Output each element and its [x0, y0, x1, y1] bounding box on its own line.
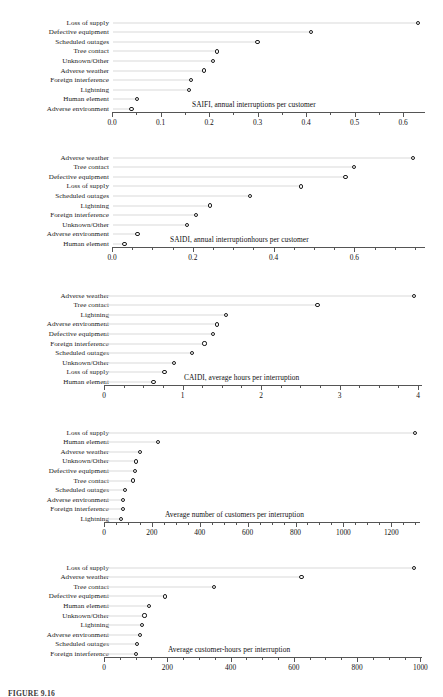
axis-tick-major	[112, 112, 113, 117]
dot-plot-row: Adverse environment	[0, 495, 443, 505]
axis-tick-minor	[176, 522, 177, 525]
axis-tick-minor	[136, 657, 137, 660]
axis-tick-minor	[367, 522, 368, 525]
axis-tick-major	[274, 247, 275, 252]
axis-tick-minor	[260, 522, 261, 525]
dot-plot-row: Loss of supply	[0, 428, 443, 438]
axis-tick-label: 0	[102, 528, 106, 537]
category-label: Foreign interference	[50, 211, 109, 220]
data-point-marker	[211, 59, 215, 63]
dot-plot-row: Human element	[0, 601, 443, 611]
category-label: Loss of supply	[67, 18, 109, 27]
data-point-marker	[215, 322, 219, 326]
category-label: Human element	[63, 601, 109, 610]
dot-plot-row: Adverse weather	[0, 447, 443, 457]
axis-tick-minor	[120, 657, 121, 660]
axis-tick-label: 0.5	[350, 118, 359, 127]
dot-plot-row: Lightning	[0, 310, 443, 320]
category-label: Unknown/Other	[62, 457, 109, 466]
leader-line	[113, 80, 189, 81]
dot-plot-row: Adverse environment	[0, 320, 443, 330]
dot-plot-row: Scheduled outages	[0, 37, 443, 47]
data-point-marker	[255, 40, 259, 44]
panel-title: SAIFI, annual interruptions per customer	[192, 100, 316, 109]
axis-tick-minor	[395, 247, 396, 250]
data-point-marker	[134, 459, 138, 463]
category-label: Defective equipment	[49, 466, 109, 475]
dot-plot-row: Adverse weather	[0, 153, 443, 163]
axis-tick-major	[104, 385, 105, 390]
axis-tick-label: 200	[162, 663, 173, 672]
data-point-marker	[187, 88, 191, 92]
category-label: Adverse weather	[60, 153, 109, 162]
dot-plot-row: Foreign interference	[0, 210, 443, 220]
axis-tick-label: 0.2	[188, 253, 197, 262]
x-axis: 01234	[0, 385, 443, 403]
category-label: Unknown/Other	[62, 358, 109, 367]
axis-tick-minor	[163, 385, 164, 388]
category-label: Defective equipment	[49, 172, 109, 181]
leader-line	[113, 186, 299, 187]
axis-tick-major	[112, 247, 113, 252]
data-point-marker	[212, 585, 216, 589]
leader-line	[113, 22, 416, 23]
axis-tick-minor	[405, 657, 406, 660]
data-point-marker	[185, 223, 189, 227]
dot-plot-row: Lightning	[0, 620, 443, 630]
axis-tick-major	[306, 112, 307, 117]
leader-line	[113, 99, 135, 100]
leader-line	[105, 442, 156, 443]
data-point-marker	[135, 642, 139, 646]
category-label: Loss of supply	[67, 428, 109, 437]
axis-tick-minor	[136, 112, 137, 115]
category-label: Scheduled outages	[55, 191, 109, 200]
axis-tick-minor	[124, 385, 125, 388]
axis-tick-minor	[246, 657, 247, 660]
axis-tick-minor	[415, 247, 416, 250]
axis-tick-major	[104, 522, 105, 527]
axis-tick-minor	[330, 112, 331, 115]
axis-tick-minor	[294, 247, 295, 250]
axis-tick-label: 600	[288, 663, 299, 672]
axis-tick-major	[355, 112, 356, 117]
leader-line	[113, 41, 256, 42]
category-label: Adverse environment	[47, 495, 109, 504]
data-point-marker	[412, 294, 416, 298]
data-point-marker	[134, 652, 138, 656]
axis-tick-minor	[151, 657, 152, 660]
leader-line	[105, 634, 138, 635]
dot-plot-row: Loss of supply	[0, 18, 443, 28]
data-point-marker	[411, 156, 415, 160]
axis-tick-minor	[262, 657, 263, 660]
data-point-marker	[208, 203, 212, 207]
data-point-marker	[121, 498, 125, 502]
data-point-marker	[123, 488, 127, 492]
category-label: Foreign interference	[50, 339, 109, 348]
axis-tick-minor	[314, 247, 315, 250]
axis-tick-minor	[403, 522, 404, 525]
axis-tick-minor	[355, 522, 356, 525]
leader-line	[105, 596, 163, 597]
data-point-marker	[156, 440, 160, 444]
axis-tick-major	[296, 522, 297, 527]
x-axis: 0.00.20.40.6	[0, 247, 443, 265]
dot-plot-row: Tree contact	[0, 301, 443, 311]
data-point-marker	[142, 613, 146, 617]
axis-tick-major	[354, 247, 355, 252]
axis-tick-minor	[281, 385, 282, 388]
axis-tick-minor	[379, 112, 380, 115]
leader-line	[113, 205, 208, 206]
category-label: Adverse environment	[47, 630, 109, 639]
leader-line	[105, 615, 143, 616]
x-axis: 0.00.10.20.30.40.50.6	[0, 112, 443, 130]
category-label: Adverse weather	[60, 66, 109, 75]
axis-tick-minor	[241, 385, 242, 388]
axis-tick-major	[403, 112, 404, 117]
leader-line	[105, 295, 412, 296]
axis-tick-minor	[185, 112, 186, 115]
leader-line	[105, 362, 172, 363]
data-point-marker	[129, 107, 133, 111]
axis-tick-major	[193, 247, 194, 252]
dot-plot-row: Tree contact	[0, 476, 443, 486]
panel-title: CAIDI, average hours per interruption	[184, 373, 299, 382]
